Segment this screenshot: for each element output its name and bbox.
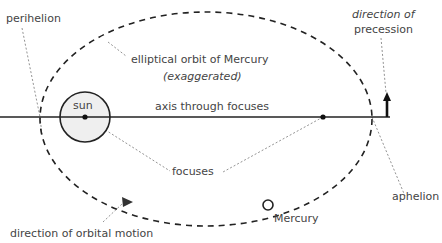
orbit-label-line2: (exaggerated) [163,70,242,83]
mercury-orbit-diagram: perihelion elliptical orbit of Mercury (… [0,0,442,243]
focus-1 [82,114,87,119]
orbital-motion-label: direction of orbital motion [10,227,153,240]
focuses-label: focuses [172,165,214,178]
precession-arrow-icon [383,92,391,101]
perihelion-label: perihelion [6,12,61,25]
precession-label-line1: direction of [352,8,417,21]
orbit-label-leader [108,42,126,56]
mercury-planet [263,200,273,210]
precession-label-line2: precession [354,23,413,36]
focus-2 [320,114,325,119]
orbit-label-line1: elliptical orbit of Mercury [131,53,269,66]
focus2-leader [223,117,323,172]
aphelion-label: aphelion [392,190,439,203]
perihelion-leader [22,28,40,117]
axis-label: axis through focuses [155,100,269,113]
precession-leader [381,38,386,93]
aphelion-leader [372,117,405,196]
mercury-label: Mercury [274,212,319,225]
orbital-direction-arrow-icon [122,197,133,207]
sun-label: sun [73,99,93,112]
